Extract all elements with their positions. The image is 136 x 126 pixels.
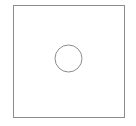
square-outline [14, 6, 125, 118]
diagram-canvas: Square with inscribed circle Square Circ… [0, 0, 136, 126]
figure-svg [0, 0, 136, 126]
circle-outline [55, 45, 82, 72]
